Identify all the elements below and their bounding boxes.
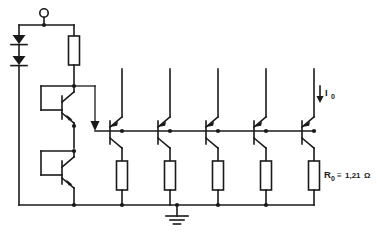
bias-resistor-body <box>69 36 80 65</box>
output-resistor-symbol: R <box>324 169 331 180</box>
output-current-label: I <box>325 87 328 98</box>
input-terminal <box>19 9 74 27</box>
q5-base-node <box>312 129 316 133</box>
output-resistor-label-group: R 0 ≡ 1,21 Ω <box>324 169 371 182</box>
output-stage-4 <box>254 69 272 207</box>
q1-bottom-node <box>120 203 124 207</box>
driver-transistor-2 <box>41 149 76 205</box>
driver-route-arrowhead <box>91 121 100 131</box>
bottom-rail-node-driver <box>72 203 76 207</box>
diode-d1-triangle <box>13 35 26 44</box>
output-resistor-unit: Ω <box>364 171 371 180</box>
current-arrow-head <box>316 96 323 103</box>
left-rail-branch <box>11 25 27 205</box>
driver1-collector-lead <box>62 92 74 102</box>
q5-emitter-lead <box>302 138 314 148</box>
output-resistor-value: 1,21 <box>345 171 361 180</box>
circuit-diagram: I 0 R 0 ≡ 1,21 Ω <box>0 0 377 241</box>
driver1-emitter-node <box>72 124 76 128</box>
ground-symbol <box>166 203 188 224</box>
q1-base-node <box>120 129 124 133</box>
q1-emitter-resistor <box>117 161 128 190</box>
driver-transistor-1 <box>41 84 76 148</box>
q3-emitter-resistor <box>213 161 224 190</box>
q3-base-node <box>216 129 220 133</box>
q3-bottom-node <box>216 203 220 207</box>
driver2-collector-lead <box>62 157 74 167</box>
output-stage-2 <box>158 69 176 205</box>
q3-emitter-lead <box>206 138 218 148</box>
output-resistor-subscript: 0 <box>331 175 335 182</box>
q4-emitter-resistor <box>261 161 272 190</box>
top-bus-node <box>42 23 46 27</box>
q4-bottom-node <box>264 203 268 207</box>
diode-d2 <box>11 56 27 66</box>
schematic-canvas: I 0 R 0 ≡ 1,21 Ω <box>0 0 377 241</box>
output-resistor-relation: ≡ <box>337 171 342 180</box>
output-current-arrow: I 0 <box>316 86 335 103</box>
q4-emitter-lead <box>254 138 266 148</box>
q2-emitter-resistor <box>165 161 176 190</box>
output-current-subscript: 0 <box>331 93 335 100</box>
output-stage-3 <box>206 69 224 207</box>
diode-d2-triangle <box>13 56 26 65</box>
output-stage-1 <box>110 69 128 207</box>
q5-emitter-resistor <box>309 161 320 190</box>
q1-emitter-lead <box>110 138 122 148</box>
diode-d1 <box>11 35 27 45</box>
input-terminal-circle <box>40 9 48 17</box>
q4-base-node <box>264 129 268 133</box>
q2-emitter-lead <box>158 138 170 148</box>
q2-base-node <box>168 129 172 133</box>
bias-resistor <box>69 25 80 86</box>
output-stage-5 <box>302 69 320 205</box>
driver-to-base-rail-route <box>74 86 100 131</box>
